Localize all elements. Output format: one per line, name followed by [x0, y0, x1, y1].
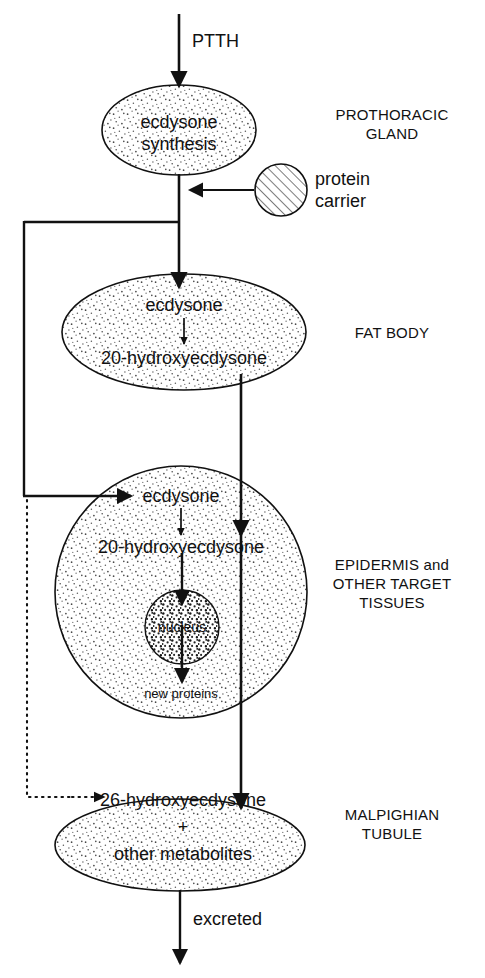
- ptth-label: PTTH: [192, 31, 239, 51]
- region-label-epidermis-line3: TISSUES: [359, 594, 425, 611]
- pathway-diagram-svg: PTTH excreted ecdysone synthesis protein…: [0, 0, 485, 978]
- protein-carrier-circle: [255, 164, 307, 216]
- protein-carrier-label-line2: carrier: [315, 191, 366, 211]
- fatbody-node-line2: 20-hydroxyecdysone: [101, 348, 267, 368]
- epidermis-node-line3: new proteins: [144, 686, 218, 701]
- pathway-diagram-canvas: PTTH excreted ecdysone synthesis protein…: [0, 0, 485, 978]
- region-label-fat-body: FAT BODY: [355, 324, 429, 341]
- malpighian-node-line2: +: [178, 817, 189, 837]
- epidermis-node-line2: 20-hydroxyecdysone: [98, 537, 264, 557]
- nucleus-label: nucleus: [158, 619, 206, 635]
- malpighian-node-line3: other metabolites: [114, 844, 252, 864]
- region-label-malpighian-line2: TUBULE: [362, 825, 422, 842]
- gland-node-line1: ecdysone: [140, 112, 217, 132]
- protein-carrier-label-line1: protein: [315, 169, 370, 189]
- region-label-epidermis-line2: OTHER TARGET: [333, 575, 452, 592]
- region-label-prothoracic-gland-line1: PROTHORACIC: [335, 106, 448, 123]
- malpighian-node-line1: 26-hydroxyecdysone: [100, 790, 266, 810]
- region-label-prothoracic-gland-line2: GLAND: [366, 125, 419, 142]
- epidermis-node-line1: ecdysone: [142, 486, 219, 506]
- region-label-epidermis-line1: EPIDERMIS and: [335, 556, 449, 573]
- fatbody-node-line1: ecdysone: [145, 295, 222, 315]
- excreted-label: excreted: [193, 909, 262, 929]
- region-label-malpighian-line1: MALPIGHIAN: [345, 806, 440, 823]
- gland-node-line2: synthesis: [141, 134, 216, 154]
